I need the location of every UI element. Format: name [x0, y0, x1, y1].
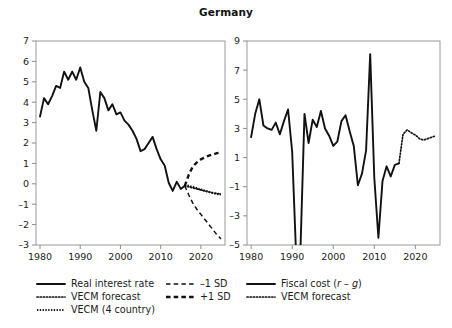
legend-item-label: VECM (4 country)	[71, 304, 155, 315]
legend-line-icon	[36, 291, 66, 302]
left-legend-item[interactable]: –1 SD	[165, 277, 231, 290]
y-axis-label: –3	[18, 239, 29, 250]
legend-item-label: VECM forecast	[281, 291, 350, 302]
left-legend-item[interactable]: +1 SD	[165, 290, 231, 303]
y-axis-label: 3	[23, 117, 29, 128]
x-axis-label: 1980	[28, 251, 52, 262]
left-legend-item[interactable]: VECM (4 country)	[36, 303, 155, 316]
x-axis-label: 1990	[280, 251, 304, 262]
x-axis-label: 2020	[403, 251, 427, 262]
legend-item-label: Fiscal cost (r – g)	[281, 278, 362, 289]
x-axis-label: 2020	[189, 251, 213, 262]
left-chart-svg: –3–2–10123456719801990200020102020	[0, 28, 232, 260]
x-axis-label: 1990	[68, 251, 92, 262]
left-chart-panel: –3–2–10123456719801990200020102020	[0, 28, 232, 260]
legend-swatch-dash-thin	[165, 278, 195, 289]
figure-title: Germany	[0, 6, 452, 18]
right-legend-item[interactable]: VECM forecast	[246, 290, 362, 303]
y-axis-label: 6	[23, 56, 29, 67]
x-axis-label: 2010	[362, 251, 386, 262]
left-legend-item[interactable]: VECM forecast	[36, 290, 155, 303]
series-line	[40, 68, 185, 191]
legend-line-icon	[165, 278, 195, 289]
y-axis-label: 5	[234, 94, 240, 105]
legend-line-icon	[246, 278, 276, 289]
legend-item-label: +1 SD	[200, 291, 231, 302]
x-axis-label: 2000	[321, 251, 345, 262]
x-axis-label: 2000	[108, 251, 132, 262]
y-axis-label: 7	[23, 35, 29, 46]
series-line	[251, 54, 399, 259]
y-axis-label: 9	[234, 35, 240, 46]
y-axis-label: 0	[23, 178, 29, 189]
y-axis-label: 3	[234, 123, 240, 134]
legend-swatch-dash-bold	[165, 291, 195, 302]
y-axis-label: 7	[234, 65, 240, 76]
legend-item-label: VECM forecast	[71, 291, 140, 302]
legend-swatch-dotdense	[36, 304, 66, 315]
right-chart-panel: –5–3–11357919801990200020102020	[218, 28, 452, 260]
legend-line-icon	[246, 291, 276, 302]
x-axis-label: 2010	[149, 251, 173, 262]
right-legend-column: Fiscal cost (r – g)VECM forecast	[246, 277, 362, 303]
right-legend: Fiscal cost (r – g)VECM forecast	[246, 277, 362, 303]
legend-swatch-dotted	[246, 291, 276, 302]
legend-item-label: –1 SD	[200, 278, 227, 289]
right-legend-item[interactable]: Fiscal cost (r – g)	[246, 277, 362, 290]
legend-swatch-solid	[36, 278, 66, 289]
right-chart-svg: –5–3–11357919801990200020102020	[218, 28, 452, 260]
series-line	[399, 130, 436, 164]
y-axis-label: 4	[23, 97, 29, 108]
left-legend-column-primary: Real interest rateVECM forecastVECM (4 c…	[36, 277, 155, 316]
legend-item-label: Real interest rate	[71, 278, 154, 289]
legend-line-icon	[36, 304, 66, 315]
y-axis-label: 1	[234, 152, 240, 163]
y-axis-label: –3	[229, 210, 240, 221]
legend-line-icon	[165, 291, 195, 302]
legend-swatch-solid	[246, 278, 276, 289]
y-axis-label: –2	[18, 219, 29, 230]
y-axis-label: –5	[229, 239, 240, 250]
legend-line-icon	[36, 278, 66, 289]
figure-root: Germany –3–2–101234567198019902000201020…	[0, 0, 452, 328]
x-axis-label: 1980	[239, 251, 263, 262]
plot-frame	[247, 41, 440, 245]
left-legend-column-bands: –1 SD+1 SD	[165, 277, 231, 316]
left-legend: Real interest rateVECM forecastVECM (4 c…	[36, 277, 231, 316]
y-axis-label: 1	[23, 158, 29, 169]
y-axis-label: 2	[23, 137, 29, 148]
y-axis-label: –1	[18, 199, 29, 210]
y-axis-label: –1	[229, 181, 240, 192]
legend-swatch-dotted	[36, 291, 66, 302]
series-line	[185, 152, 221, 186]
left-legend-item[interactable]: Real interest rate	[36, 277, 155, 290]
y-axis-label: 5	[23, 76, 29, 87]
